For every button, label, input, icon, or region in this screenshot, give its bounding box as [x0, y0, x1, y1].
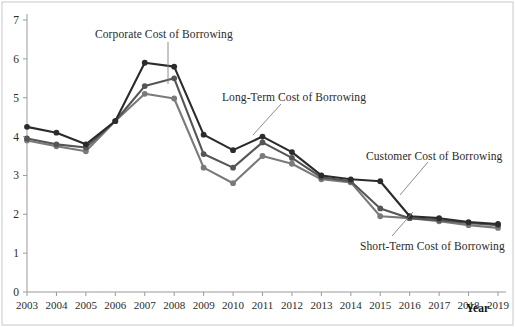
annotation-customer-cost: Customer Cost of Borrowing [366, 150, 502, 162]
x-tick-label: 2009 [193, 299, 216, 311]
x-tick-label: 2004 [45, 299, 68, 311]
data-point-marker [289, 155, 295, 161]
annotation-short-term-cost: Short-Term Cost of Borrowing [360, 240, 505, 252]
data-point-marker [289, 161, 295, 167]
data-point-marker [289, 149, 295, 155]
y-tick-label: 0 [13, 286, 19, 298]
data-point-marker [142, 83, 148, 89]
x-tick-label: 2008 [163, 299, 186, 311]
x-tick-label: 2015 [369, 299, 392, 311]
x-tick-label: 2011 [252, 299, 274, 311]
x-tick-label: 2006 [104, 299, 127, 311]
x-axis-title: Year [466, 302, 489, 314]
data-point-marker [171, 96, 177, 102]
annotation-long-term-cost: Long-Term Cost of Borrowing [222, 91, 366, 103]
data-point-marker [377, 178, 383, 184]
data-point-marker [230, 180, 236, 186]
data-point-marker [54, 141, 60, 147]
data-point-marker [142, 60, 148, 66]
data-point-marker [201, 165, 207, 171]
data-point-marker [83, 141, 89, 147]
x-tick-label: 2017 [428, 299, 451, 311]
y-tick-label: 2 [13, 208, 19, 220]
data-point-marker [24, 136, 30, 142]
x-tick-label: 2005 [75, 299, 98, 311]
x-tick-label: 2007 [134, 299, 157, 311]
y-tick-label: 5 [13, 92, 19, 104]
data-point-marker [260, 153, 266, 159]
y-tick-label: 6 [13, 53, 19, 65]
data-point-marker [260, 140, 266, 146]
annotation-corporate-cost: Corporate Cost of Borrowing [95, 28, 233, 40]
x-tick-label: 2019 [487, 299, 510, 311]
data-point-marker [54, 130, 60, 136]
data-point-marker [201, 151, 207, 157]
y-tick-label: 1 [13, 247, 19, 259]
data-point-marker [318, 173, 324, 179]
data-point-marker [466, 219, 472, 225]
x-tick-label: 2010 [222, 299, 245, 311]
chart-plot-area: 01234567 2003200420052006200720082009201… [0, 0, 515, 327]
data-point-marker [112, 118, 118, 124]
x-tick-label: 2016 [399, 299, 422, 311]
data-point-marker [171, 64, 177, 70]
data-point-marker [495, 221, 501, 227]
chart-background [0, 0, 515, 327]
line-chart-figure: 01234567 2003200420052006200720082009201… [0, 0, 515, 327]
y-tick-label: 3 [13, 169, 19, 181]
data-point-marker [24, 124, 30, 130]
data-point-marker [436, 215, 442, 221]
y-tick-label: 7 [13, 14, 19, 26]
data-point-marker [348, 176, 354, 182]
data-point-marker [230, 165, 236, 171]
data-point-marker [201, 132, 207, 138]
y-tick-label: 4 [13, 131, 19, 143]
data-point-marker [171, 75, 177, 81]
data-point-marker [142, 91, 148, 97]
data-point-marker [260, 134, 266, 140]
data-point-marker [377, 206, 383, 212]
x-tick-label: 2014 [340, 299, 363, 311]
x-tick-label: 2012 [281, 299, 303, 311]
x-tick-label: 2013 [310, 299, 333, 311]
data-point-marker [377, 213, 383, 219]
data-point-marker [230, 147, 236, 153]
x-tick-label: 2003 [16, 299, 39, 311]
